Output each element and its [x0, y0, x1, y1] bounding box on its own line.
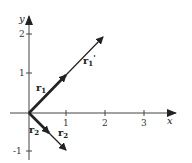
x-tick-1: 1 [63, 118, 69, 128]
y-tick-2: 2 [19, 29, 25, 39]
x-tick-2: 2 [102, 118, 108, 128]
vector-r2: r2 [29, 113, 49, 137]
x-tick-3: 3 [141, 118, 147, 128]
vector-r1: r1 [29, 75, 66, 113]
y-axis-label: y [18, 13, 25, 24]
y-tick-neg1: -1 [13, 146, 22, 156]
r2-prime-label: r2 [58, 127, 68, 140]
x-axis-label: x [167, 115, 173, 126]
y-tick-1: 1 [19, 68, 25, 78]
r1-label: r1 [36, 82, 46, 95]
r1-prime-label: r1' [83, 52, 96, 68]
r2-label: r2 [29, 124, 39, 137]
y-axis: 2 1 -1 y [13, 13, 32, 160]
vector-diagram: 1 2 3 x 2 1 -1 y r1' r1 r2 r2 [0, 0, 192, 163]
